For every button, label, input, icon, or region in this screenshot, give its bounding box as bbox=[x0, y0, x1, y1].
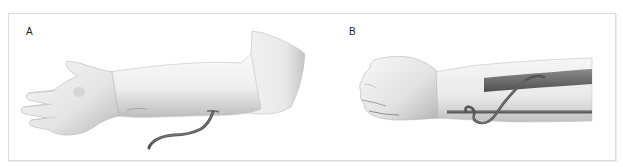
arm-with-catheter-icon bbox=[9, 14, 314, 160]
panel-a: A bbox=[9, 14, 314, 160]
forearm-vessel-loop-icon bbox=[314, 14, 615, 160]
panel-b: B bbox=[314, 14, 615, 160]
figure-frame: A bbox=[8, 13, 616, 161]
